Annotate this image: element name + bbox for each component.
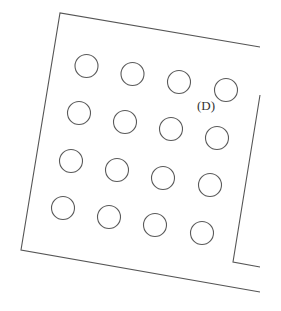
hole-circle <box>199 174 222 197</box>
hole-circle <box>168 71 191 94</box>
plate-outline-right-notch <box>233 95 260 267</box>
plate-outline-main <box>21 13 260 292</box>
hole-circle <box>215 79 238 102</box>
hole-circle <box>144 214 167 237</box>
hole-circle <box>206 127 229 150</box>
hole-circle <box>75 55 98 78</box>
perforated-plate-diagram: (D) <box>0 0 281 311</box>
diagram-label: (D) <box>197 98 215 113</box>
hole-grid <box>52 55 238 245</box>
hole-circle <box>68 102 91 125</box>
hole-circle <box>160 118 183 141</box>
hole-circle <box>152 167 175 190</box>
hole-circle <box>121 63 144 86</box>
hole-circle <box>106 159 129 182</box>
hole-circle <box>52 197 75 220</box>
hole-circle <box>98 206 121 229</box>
hole-circle <box>114 111 137 134</box>
hole-circle <box>191 222 214 245</box>
hole-circle <box>60 150 83 173</box>
